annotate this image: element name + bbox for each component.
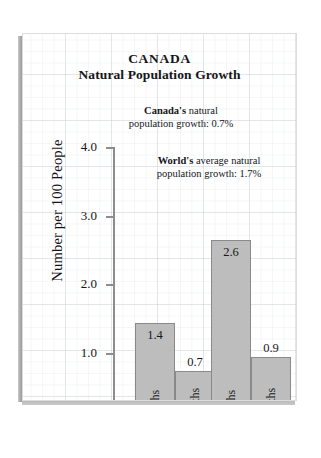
bar-world-births: 2.6 Births — [211, 240, 251, 401]
chart-page: CANADA Natural Population Growth Canada'… — [0, 0, 321, 458]
bar-value-world-births: 2.6 — [223, 245, 239, 260]
y-axis-line — [113, 147, 115, 401]
y-tick-1: 1.0 — [106, 353, 113, 355]
bar-canada-births: 1.4 Births — [135, 323, 175, 401]
annotation-canada-line-2: population growth: 0.7% — [105, 118, 257, 131]
annotation-canada-line-1: Canada's natural — [105, 105, 257, 118]
bar-category-canada-births: Births — [148, 390, 163, 401]
bar-category-world-births: Births — [224, 390, 239, 401]
annotation-canada-bold: Canada's — [144, 105, 186, 116]
chart-title: CANADA Natural Population Growth — [23, 51, 296, 83]
bar-world-deaths: 0.9 Deaths — [251, 357, 291, 401]
bar-canada-deaths: 0.7 Deaths — [175, 371, 215, 401]
annotation-canada: Canada's natural population growth: 0.7% — [105, 105, 257, 131]
chart-title-line-2: Natural Population Growth — [23, 67, 296, 83]
plot-area: 0 1.0 2.0 3.0 4.0 1.4 Births 0.7 Dea — [113, 147, 297, 401]
y-tick-label-3: 3.0 — [81, 208, 97, 224]
y-tick-label-4: 4.0 — [81, 139, 97, 155]
y-tick-label-2: 2.0 — [81, 276, 97, 292]
y-axis-label: Number per 100 People — [49, 111, 66, 311]
annotation-canada-rest: natural — [186, 105, 218, 116]
y-tick-2: 2.0 — [106, 284, 113, 286]
bar-value-canada-births: 1.4 — [147, 328, 163, 343]
bar-category-canada-deaths: Deaths — [188, 388, 203, 401]
chart-card: CANADA Natural Population Growth Canada'… — [22, 33, 297, 401]
bar-category-world-deaths: Deaths — [264, 388, 279, 401]
bar-value-world-deaths: 0.9 — [263, 341, 279, 356]
y-tick-3: 3.0 — [106, 216, 113, 218]
chart-title-line-1: CANADA — [23, 51, 296, 67]
y-tick-4: 4.0 — [106, 147, 113, 149]
y-tick-label-1: 1.0 — [81, 345, 97, 361]
bar-value-canada-deaths: 0.7 — [187, 355, 203, 370]
